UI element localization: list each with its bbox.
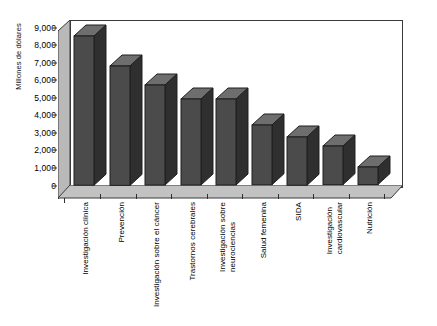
x-axis-category-label-line: Nutrición — [365, 202, 375, 234]
x-axis-tick-mark — [384, 194, 385, 199]
bar-chart: Millones de dólares 9,0008,0007,0006,000… — [0, 0, 437, 326]
y-axis-tick-mark — [52, 80, 57, 81]
x-axis-category-label: Salud femenina — [259, 202, 269, 258]
x-axis-category-label-line: neurociencias — [228, 202, 238, 272]
bar — [74, 36, 94, 185]
x-axis-category-labels: Investigación clínicaPrevenciónInvestiga… — [58, 202, 403, 326]
bar-series — [58, 20, 403, 199]
bar-side-face — [271, 114, 283, 185]
bar-front-face — [252, 125, 272, 185]
x-axis-category-label: Trastornos cerebrales — [188, 202, 198, 281]
bar-front-face — [358, 167, 378, 185]
bar-front-face — [216, 99, 236, 185]
y-axis-ticks — [48, 0, 58, 326]
bar-side-face — [236, 88, 248, 185]
y-axis-tick-mark — [52, 185, 57, 186]
x-axis-ticks — [58, 185, 403, 199]
y-axis-tick-mark — [52, 115, 57, 116]
x-axis-category-label: Investigación sobreneurociencias — [218, 202, 237, 272]
bar-front-face — [145, 85, 165, 185]
bar — [216, 99, 236, 185]
bar — [145, 85, 165, 185]
y-axis-tick-mark — [52, 45, 57, 46]
x-axis-tick-mark — [100, 194, 101, 199]
x-axis-category-label-line: Investigación clínica — [81, 202, 91, 275]
x-axis-category-label-line: cardiovascular — [334, 202, 344, 254]
x-axis-category-label: Prevención — [117, 202, 127, 243]
y-axis-tick-mark — [52, 132, 57, 133]
x-axis-tick-mark — [278, 194, 279, 199]
plot-area — [58, 20, 403, 199]
x-axis-tick-mark — [136, 194, 137, 199]
bar — [287, 137, 307, 185]
bar-front-face — [74, 36, 94, 185]
bar-side-face — [94, 25, 106, 185]
bar — [358, 167, 378, 185]
bar — [252, 125, 272, 185]
bar — [181, 99, 201, 185]
bar-side-face — [200, 88, 212, 185]
bar — [110, 66, 130, 185]
bar-side-face — [165, 74, 177, 185]
bar-front-face — [323, 146, 343, 185]
x-axis-category-label-line: Investigación — [325, 202, 335, 254]
y-axis-tick-mark — [52, 150, 57, 151]
x-axis-tick-mark — [313, 194, 314, 199]
x-axis-category-label: Investigacióncardiovascular — [325, 202, 344, 254]
x-axis-category-label-line: Trastornos cerebrales — [188, 202, 198, 281]
bar-front-face — [287, 137, 307, 185]
y-axis-tick-mark — [52, 27, 57, 28]
y-axis-tick-mark — [52, 97, 57, 98]
x-axis-tick-mark — [171, 194, 172, 199]
bar-front-face — [110, 66, 130, 185]
y-axis-tick-mark — [52, 62, 57, 63]
x-axis-category-label-line: Prevención — [117, 202, 127, 243]
x-axis-category-label: Investigación clínica — [81, 202, 91, 275]
x-axis-category-label-line: Investigación sobre — [218, 202, 228, 272]
x-axis-tick-mark — [242, 194, 243, 199]
x-axis-category-label-line: Investigación sobre el cáncer — [152, 202, 162, 307]
x-axis-category-label: Investigación sobre el cáncer — [152, 202, 162, 307]
bar-side-face — [307, 126, 319, 185]
bar-front-face — [181, 99, 201, 185]
x-axis-tick-mark — [349, 194, 350, 199]
x-axis-category-label: SIDA — [294, 202, 304, 221]
bar-side-face — [129, 55, 141, 185]
x-axis-category-label-line: Salud femenina — [259, 202, 269, 258]
x-axis-category-label-line: SIDA — [294, 202, 304, 221]
bar — [323, 146, 343, 185]
y-axis-tick-mark — [52, 167, 57, 168]
x-axis-tick-mark — [207, 194, 208, 199]
x-axis-category-label: Nutrición — [365, 202, 375, 234]
